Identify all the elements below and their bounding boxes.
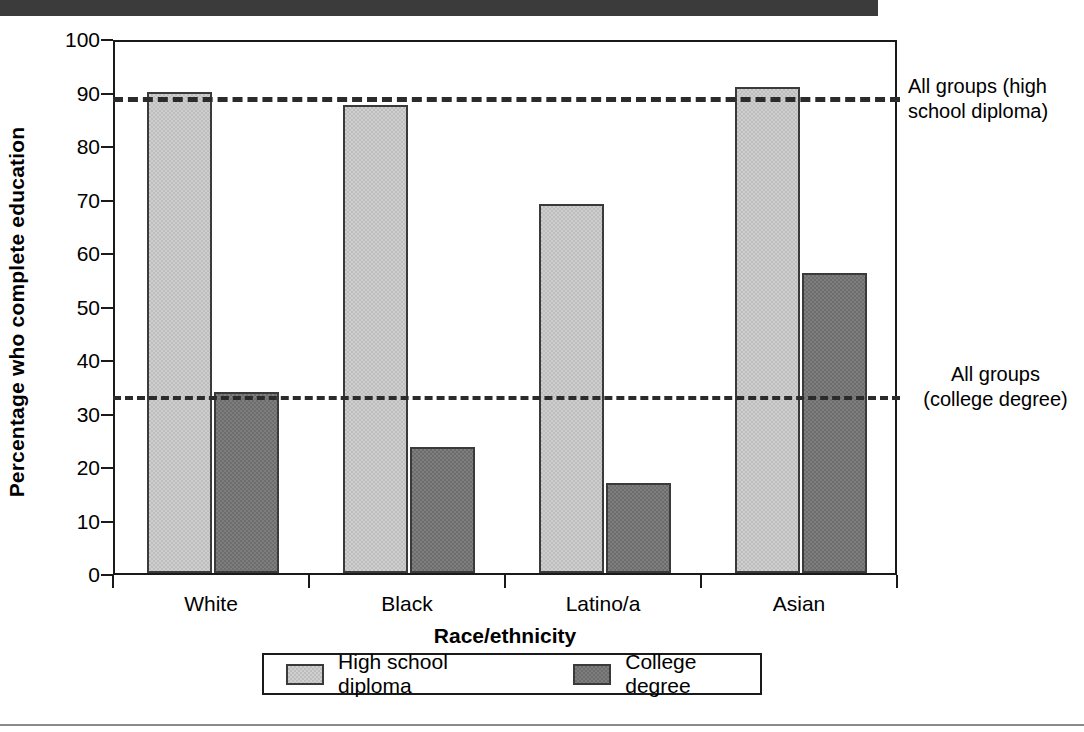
y-tick-label: 80 bbox=[0, 136, 100, 157]
y-tick-mark bbox=[101, 93, 113, 95]
bar-white-college bbox=[214, 392, 279, 573]
y-tick-mark bbox=[101, 521, 113, 523]
y-tick-mark bbox=[101, 467, 113, 469]
y-tick-label: 40 bbox=[0, 350, 100, 371]
y-tick-mark bbox=[101, 146, 113, 148]
y-tick-label: 30 bbox=[0, 404, 100, 425]
x-tick-mark bbox=[112, 575, 114, 588]
y-tick-mark bbox=[101, 253, 113, 255]
y-tick-label: 100 bbox=[0, 29, 100, 50]
x-tick-mark bbox=[896, 575, 898, 588]
y-tick-label: 90 bbox=[0, 83, 100, 104]
y-tick-label: 60 bbox=[0, 243, 100, 264]
x-tick-mark bbox=[700, 575, 702, 588]
bar-latino-a-high-school bbox=[539, 204, 604, 573]
bar-white-high-school bbox=[147, 92, 212, 573]
reference-line-all-groups-college bbox=[113, 396, 900, 400]
chart-figure: Percentage who complete education 100908… bbox=[0, 0, 1084, 732]
legend-swatch-college bbox=[573, 664, 611, 685]
bar-asian-college bbox=[802, 273, 867, 573]
y-tick-label: 0 bbox=[0, 564, 100, 585]
reference-label-hs-line2: school diploma) bbox=[908, 99, 1083, 124]
x-tick-mark bbox=[504, 575, 506, 588]
bottom-divider bbox=[0, 724, 1084, 726]
top-banner-decoration bbox=[0, 0, 878, 16]
chart-legend: High school diploma College degree bbox=[262, 653, 762, 695]
y-tick-mark bbox=[101, 360, 113, 362]
reference-label-college: All groups (college degree) bbox=[908, 362, 1083, 412]
x-category-label-latino-a: Latino/a bbox=[503, 592, 703, 616]
y-tick-mark bbox=[101, 200, 113, 202]
legend-label-high-school: High school diploma bbox=[338, 650, 517, 698]
x-axis-title: Race/ethnicity bbox=[113, 624, 897, 648]
reference-label-col-line1: All groups bbox=[908, 362, 1083, 387]
x-category-label-white: White bbox=[111, 592, 311, 616]
legend-swatch-high-school bbox=[286, 664, 324, 685]
legend-item-high-school-diploma: High school diploma bbox=[286, 650, 517, 698]
y-tick-label: 70 bbox=[0, 190, 100, 211]
y-tick-mark bbox=[101, 307, 113, 309]
x-tick-mark bbox=[308, 575, 310, 588]
y-tick-label: 10 bbox=[0, 511, 100, 532]
bar-black-college bbox=[410, 447, 475, 573]
y-tick-label: 50 bbox=[0, 297, 100, 318]
bar-black-high-school bbox=[343, 105, 408, 573]
legend-item-college-degree: College degree bbox=[573, 650, 760, 698]
bar-asian-high-school bbox=[735, 87, 800, 573]
y-tick-mark bbox=[101, 414, 113, 416]
plot-area bbox=[113, 40, 897, 575]
y-tick-mark bbox=[101, 39, 113, 41]
x-category-label-asian: Asian bbox=[699, 592, 899, 616]
reference-line-all-groups-high-school bbox=[113, 97, 900, 102]
y-tick-label: 20 bbox=[0, 457, 100, 478]
reference-label-hs-line1: All groups (high bbox=[908, 74, 1083, 99]
reference-label-high-school: All groups (high school diploma) bbox=[908, 74, 1083, 124]
x-category-label-black: Black bbox=[307, 592, 507, 616]
legend-label-college: College degree bbox=[625, 650, 760, 698]
reference-label-col-line2: (college degree) bbox=[908, 387, 1083, 412]
bar-latino-a-college bbox=[606, 483, 671, 573]
